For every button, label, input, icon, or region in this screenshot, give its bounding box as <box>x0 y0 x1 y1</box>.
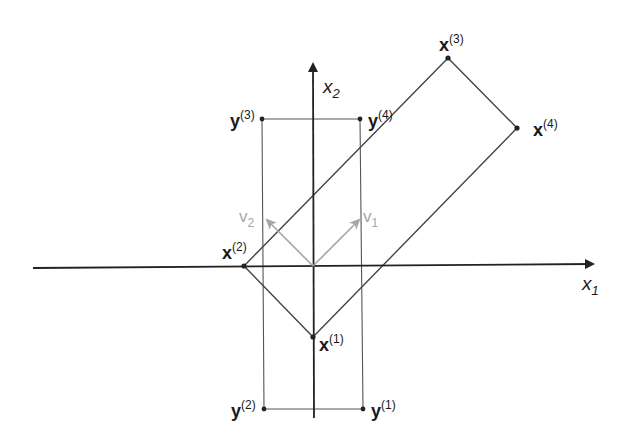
y1-label: y(1) <box>371 398 396 421</box>
x3-label: x(3) <box>439 32 464 55</box>
v1-label: v1 <box>363 207 379 230</box>
x2-label: x(2) <box>222 240 247 263</box>
point-x4 <box>514 125 519 130</box>
x-rectangle <box>244 58 517 337</box>
point-y1 <box>361 407 366 412</box>
vector-v2 <box>267 220 313 266</box>
x2-axis <box>313 64 314 418</box>
point-y3 <box>260 117 265 122</box>
x4-label: x(4) <box>533 117 558 140</box>
vector-v1 <box>313 220 359 266</box>
diagram-svg: x2 x1 v1 v2 x(1) x(2) x(3) x(4) y(1) y(2… <box>0 0 621 443</box>
point-x1 <box>310 334 315 339</box>
x1-label: x(1) <box>319 332 344 355</box>
x1-axis-label: x1 <box>581 273 599 298</box>
point-y4 <box>358 117 363 122</box>
pca-rotation-diagram: x2 x1 v1 v2 x(1) x(2) x(3) x(4) y(1) y(2… <box>0 0 621 443</box>
v2-label: v2 <box>239 207 255 230</box>
point-x3 <box>445 55 450 60</box>
point-y2 <box>262 407 267 412</box>
y2-label: y(2) <box>231 398 256 421</box>
y3-label: y(3) <box>230 108 255 131</box>
point-x2 <box>241 263 246 268</box>
x2-axis-label: x2 <box>322 76 341 101</box>
